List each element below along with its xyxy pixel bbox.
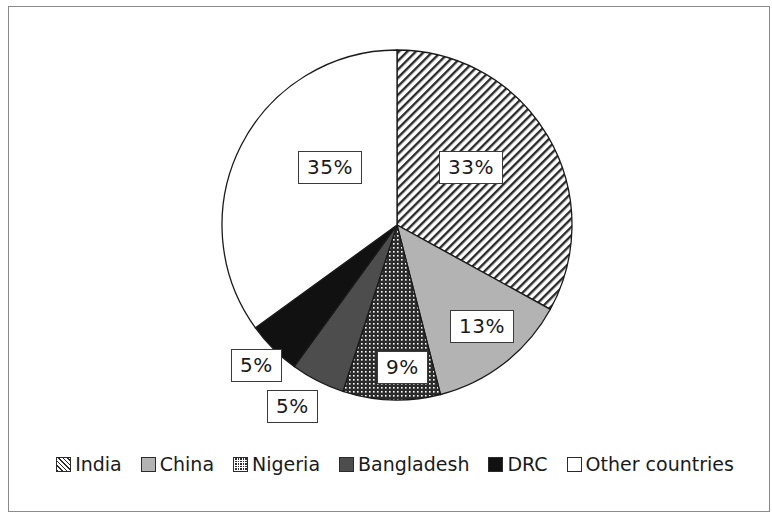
slice-label-china: 13% (450, 310, 514, 343)
chart-legend: India China Nigeria Bangladesh DRC Other… (9, 455, 772, 474)
pie-chart-plot-area: 35% 33% 13% 9% 5% 5% (9, 7, 772, 447)
legend-label-drc: DRC (507, 455, 547, 474)
legend-swatch-india-icon (56, 457, 71, 472)
legend-item-india[interactable]: India (56, 455, 122, 474)
legend-swatch-nigeria-icon (233, 457, 248, 472)
legend-label-india: India (75, 455, 122, 474)
slice-label-other-countries: 35% (298, 151, 362, 184)
legend-item-china[interactable]: China (141, 455, 214, 474)
legend-label-bangladesh: Bangladesh (358, 455, 469, 474)
legend-swatch-other-countries-icon (567, 457, 582, 472)
pie-slices-group (222, 50, 572, 400)
legend-swatch-china-icon (141, 457, 156, 472)
slice-label-drc: 5% (231, 349, 282, 382)
legend-item-drc[interactable]: DRC (488, 455, 547, 474)
legend-item-bangladesh[interactable]: Bangladesh (339, 455, 469, 474)
legend-item-other-countries[interactable]: Other countries (567, 455, 734, 474)
legend-swatch-bangladesh-icon (339, 457, 354, 472)
slice-label-india: 33% (439, 151, 503, 184)
legend-item-nigeria[interactable]: Nigeria (233, 455, 320, 474)
chart-frame: 35% 33% 13% 9% 5% 5% India China Nigeria… (8, 6, 770, 512)
legend-label-china: China (160, 455, 214, 474)
slice-label-nigeria: 9% (377, 351, 428, 384)
slice-label-bangladesh: 5% (267, 390, 318, 423)
legend-swatch-drc-icon (488, 457, 503, 472)
legend-label-other-countries: Other countries (586, 455, 734, 474)
legend-label-nigeria: Nigeria (252, 455, 320, 474)
